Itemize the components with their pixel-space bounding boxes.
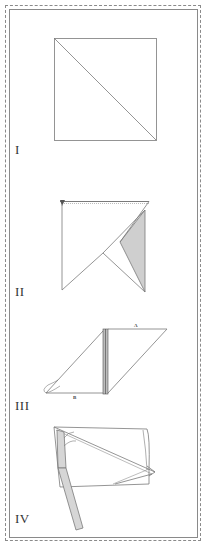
step-label-2: II [15, 284, 25, 300]
step-3-parallelogram [44, 329, 167, 394]
step-label-4: IV [15, 511, 30, 527]
point-label-a: A [134, 323, 138, 328]
band-upper [57, 430, 66, 468]
step-4-wrapped-band [54, 427, 155, 530]
point-label-b: B [73, 395, 76, 400]
step-label-3: III [15, 398, 30, 414]
step-1-square [55, 39, 157, 141]
step-2-folded-square [60, 200, 149, 292]
folding-diagram [0, 0, 205, 545]
fold-marker [60, 200, 65, 206]
step-label-1: I [15, 142, 20, 158]
band-lower [58, 468, 83, 530]
diagonal-fold-line [55, 39, 157, 141]
